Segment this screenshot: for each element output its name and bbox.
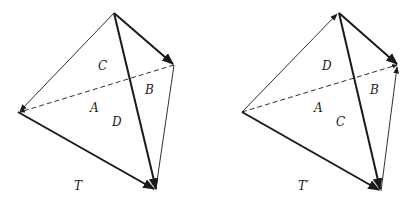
face-label-D: D bbox=[111, 115, 122, 129]
edge-top-bottom bbox=[339, 13, 380, 189]
face-label-A: A bbox=[313, 101, 323, 115]
face-label-C: C bbox=[98, 59, 107, 73]
face-label-A: A bbox=[89, 101, 99, 115]
diagram-title-T-prime: T′ bbox=[298, 179, 309, 193]
tetrahedra-figure: C B A D T D B A C T′ bbox=[0, 0, 413, 204]
edge-left-bottom bbox=[242, 112, 379, 190]
edge-top-right bbox=[339, 13, 397, 64]
edge-right-bottom bbox=[156, 65, 174, 188]
edge-bottom-right bbox=[381, 67, 397, 191]
face-label-B: B bbox=[144, 83, 154, 97]
tetrahedron-T: C B A D T bbox=[18, 13, 174, 193]
edge-top-right bbox=[114, 13, 173, 64]
tetrahedron-T-prime: D B A C T′ bbox=[242, 13, 397, 193]
face-label-D: D bbox=[321, 59, 332, 73]
edge-top-bottom bbox=[114, 13, 156, 189]
face-label-C: C bbox=[336, 115, 345, 129]
diagram-title-T: T bbox=[74, 179, 83, 193]
edge-left-bottom bbox=[18, 112, 154, 189]
face-label-B: B bbox=[369, 83, 379, 97]
